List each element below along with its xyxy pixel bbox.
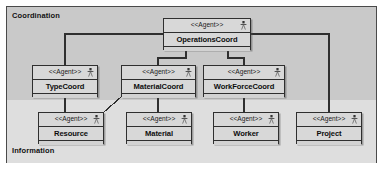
stereotype-label: <<Agent>> — [49, 69, 82, 76]
agent-icon — [268, 115, 275, 124]
node-header: <<Agent>> — [39, 113, 103, 127]
node-name: WorkForceCoord — [204, 80, 284, 93]
node-project[interactable]: <<Agent>> Project — [296, 112, 362, 144]
node-compartment — [127, 140, 191, 145]
stereotype-label: <<Agent>> — [142, 69, 175, 76]
node-header: <<Agent>> — [122, 66, 195, 80]
node-resource[interactable]: <<Agent>> Resource — [38, 112, 104, 144]
stereotype-label: <<Agent>> — [230, 116, 263, 123]
node-header: <<Agent>> — [164, 19, 250, 33]
agent-icon — [240, 21, 247, 30]
node-work-force-coord[interactable]: <<Agent>> WorkForceCoord — [203, 65, 285, 97]
stereotype-label: <<Agent>> — [191, 22, 224, 29]
node-compartment — [204, 93, 284, 98]
node-compartment — [33, 93, 97, 98]
node-compartment — [297, 140, 361, 145]
node-compartment — [164, 46, 250, 51]
stereotype-label: <<Agent>> — [228, 69, 261, 76]
diagram-canvas: Coordination Information <<Agent>> — [0, 0, 383, 172]
node-name: OperationsCoord — [164, 33, 250, 46]
agent-icon — [93, 115, 100, 124]
node-worker[interactable]: <<Agent>> Worker — [213, 112, 279, 144]
agent-icon — [87, 68, 94, 77]
node-name: Resource — [39, 127, 103, 140]
agent-icon — [185, 68, 192, 77]
node-material[interactable]: <<Agent>> Material — [126, 112, 192, 144]
node-compartment — [214, 140, 278, 145]
node-name: Worker — [214, 127, 278, 140]
node-name: MaterialCoord — [122, 80, 195, 93]
link-operationscoord-workforcecoord — [228, 50, 244, 65]
stereotype-label: <<Agent>> — [313, 116, 346, 123]
stereotype-label: <<Agent>> — [55, 116, 88, 123]
agent-icon — [181, 115, 188, 124]
node-compartment — [122, 93, 195, 98]
node-header: <<Agent>> — [33, 66, 97, 80]
node-name: Material — [127, 127, 191, 140]
node-header: <<Agent>> — [214, 113, 278, 127]
link-operationscoord-materialcoord — [158, 50, 186, 65]
node-material-coord[interactable]: <<Agent>> MaterialCoord — [121, 65, 196, 97]
node-header: <<Agent>> — [127, 113, 191, 127]
link-operationscoord-typecoord — [65, 34, 163, 65]
node-name: TypeCoord — [33, 80, 97, 93]
agent-icon — [274, 68, 281, 77]
node-operations-coord[interactable]: <<Agent>> OperationsCoord — [163, 18, 251, 50]
node-compartment — [39, 140, 103, 145]
node-type-coord[interactable]: <<Agent>> TypeCoord — [32, 65, 98, 97]
link-materialcoord-resource — [104, 97, 121, 112]
node-header: <<Agent>> — [297, 113, 361, 127]
agent-icon — [351, 115, 358, 124]
stereotype-label: <<Agent>> — [143, 116, 176, 123]
node-header: <<Agent>> — [204, 66, 284, 80]
node-name: Project — [297, 127, 361, 140]
